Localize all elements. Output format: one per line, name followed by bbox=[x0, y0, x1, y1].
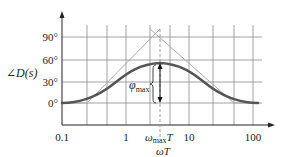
y-tick-30: 30° bbox=[43, 76, 58, 88]
brace-icon bbox=[150, 65, 156, 103]
x-axis-label: ωT bbox=[156, 145, 171, 157]
grid-horizontal bbox=[62, 37, 262, 103]
y-tick-60: 60° bbox=[43, 54, 58, 66]
y-axis-arrow-icon bbox=[60, 11, 65, 18]
y-tick-90: 90° bbox=[43, 31, 58, 43]
y-tick-0: 0° bbox=[48, 97, 58, 109]
asymptotes bbox=[62, 29, 253, 103]
phi-max-label: φmax bbox=[129, 78, 149, 94]
x-tick-10: 10 bbox=[184, 131, 196, 143]
grid-vertical bbox=[87, 25, 253, 125]
omega-max-label: ωmaxT bbox=[145, 131, 174, 145]
axes bbox=[62, 15, 270, 125]
x-tick-1: 1 bbox=[123, 131, 129, 143]
x-tick-0.1: 0.1 bbox=[55, 131, 69, 143]
y-axis-label: ∠D(s) bbox=[6, 66, 37, 80]
phase-lead-chart: 90° 60° 30° 0° ∠D(s) 0.1 1 10 100 ωmaxT … bbox=[0, 0, 281, 157]
x-tick-100: 100 bbox=[245, 131, 262, 143]
arrow-down-icon bbox=[158, 97, 163, 103]
x-axis-arrow-icon bbox=[268, 123, 275, 128]
